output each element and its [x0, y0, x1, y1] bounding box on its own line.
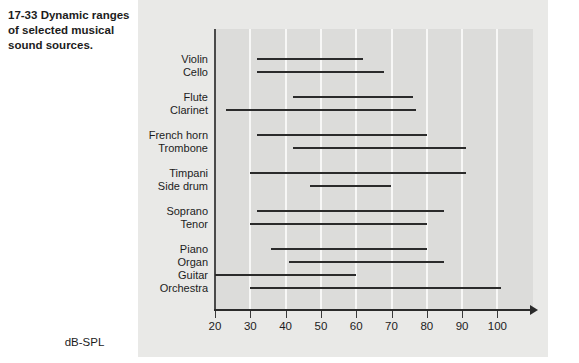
x-tick: [392, 311, 393, 318]
category-label: Cello: [98, 66, 208, 78]
category-label: Violin: [98, 53, 208, 65]
category-label: Soprano: [98, 205, 208, 217]
x-axis-arrow-icon: [530, 305, 538, 315]
gridline: [461, 29, 463, 310]
range-bar: [226, 109, 417, 111]
x-tick-label: 20: [195, 320, 235, 332]
x-tick: [427, 311, 428, 318]
x-tick: [215, 311, 216, 318]
gridline: [391, 29, 393, 310]
category-label: Trombone: [98, 142, 208, 154]
range-bar: [257, 71, 384, 73]
range-bar: [257, 210, 444, 212]
range-bar: [257, 58, 363, 60]
gridline: [426, 29, 428, 310]
range-bar: [293, 147, 466, 149]
x-tick-label: 90: [442, 320, 482, 332]
category-label: Tenor: [98, 218, 208, 230]
x-tick-label: 60: [336, 320, 376, 332]
range-bar: [289, 261, 444, 263]
category-label: Orchestra: [98, 282, 208, 294]
x-tick-label: 70: [372, 320, 412, 332]
x-tick: [497, 311, 498, 318]
range-bar: [250, 223, 427, 225]
gridline: [249, 29, 251, 310]
x-tick-label: 40: [266, 320, 306, 332]
x-tick-label: 100: [477, 320, 517, 332]
x-axis-title: dB-SPL: [65, 336, 105, 348]
category-label: Side drum: [98, 180, 208, 192]
category-label: Flute: [98, 91, 208, 103]
range-bar: [215, 274, 356, 276]
x-axis-line: [214, 309, 533, 311]
range-bar: [250, 172, 465, 174]
x-tick-label: 50: [301, 320, 341, 332]
x-tick-label: 30: [230, 320, 270, 332]
range-bar: [293, 96, 413, 98]
x-tick: [321, 311, 322, 318]
range-bar: [257, 134, 426, 136]
x-tick: [286, 311, 287, 318]
y-axis-line: [214, 29, 216, 310]
range-bar: [310, 185, 391, 187]
figure: 17-33 Dynamic ranges of selected musical…: [0, 0, 579, 363]
category-label: Organ: [98, 256, 208, 268]
category-label: French horn: [98, 129, 208, 141]
range-bar: [250, 287, 501, 289]
x-tick: [462, 311, 463, 318]
category-label: Timpani: [98, 167, 208, 179]
x-tick: [250, 311, 251, 318]
x-tick-label: 80: [407, 320, 447, 332]
range-bar: [271, 248, 426, 250]
gridline: [496, 29, 498, 310]
x-tick: [356, 311, 357, 318]
figure-number: 17-33: [8, 9, 37, 21]
category-label: Clarinet: [98, 104, 208, 116]
category-label: Piano: [98, 243, 208, 255]
category-label: Guitar: [98, 269, 208, 281]
x-axis-title-wrap: dB-SPL: [0, 336, 579, 348]
figure-caption: 17-33 Dynamic ranges of selected musical…: [8, 8, 130, 53]
